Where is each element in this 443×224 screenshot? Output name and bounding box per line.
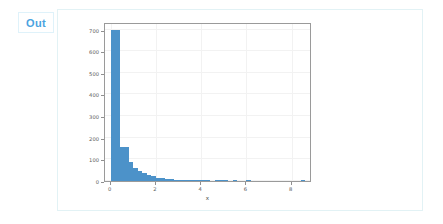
output-prompt-label: Out [18,12,54,33]
histogram-bar [206,180,211,181]
x-tick-label: 2 [153,186,156,192]
gridline-vertical [201,24,202,181]
x-tick-mark [200,182,201,185]
y-tick-label: 700 [89,28,99,34]
screenshot-root: Out 0100200300400500600700 02468 x [0,0,443,224]
x-tick-mark [110,182,111,185]
gridline-horizontal [105,29,310,30]
y-tick-label: 0 [96,179,99,185]
histogram-bar [224,180,229,181]
x-tick-label: 4 [198,186,201,192]
gridline-horizontal [105,93,310,94]
x-tick-label: 6 [244,186,247,192]
gridline-vertical [156,24,157,181]
x-tick-mark [291,182,292,185]
histogram-bar [246,180,251,181]
x-tick-mark [155,182,156,185]
gridline-horizontal [105,137,310,138]
y-tick-label: 600 [89,49,99,55]
gridline-horizontal [105,158,310,159]
gridline-horizontal [105,115,310,116]
y-tick-label: 300 [89,114,99,120]
y-tick-mark [101,182,104,183]
x-tick-mark [245,182,246,185]
output-panel: 0100200300400500600700 02468 x [57,9,423,211]
plot-area [104,23,311,182]
x-tick-label: 0 [108,186,111,192]
gridline-vertical [246,24,247,181]
y-tick-label: 400 [89,92,99,98]
gridline-vertical [292,24,293,181]
gridline-horizontal [105,72,310,73]
gridline-horizontal [105,50,310,51]
histogram-bar [233,180,238,181]
y-tick-label: 200 [89,136,99,142]
histogram-figure: 0100200300400500600700 02468 x [62,13,312,209]
x-axis-title: x [206,195,209,201]
y-tick-label: 100 [89,157,99,163]
notebook-output-cell: Out 0100200300400500600700 02468 x [18,9,423,212]
histogram-bar [301,180,306,181]
x-tick-label: 8 [289,186,292,192]
y-tick-label: 500 [89,71,99,77]
